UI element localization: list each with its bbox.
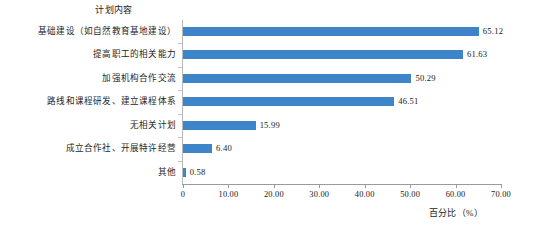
bar-row: 提高职工的相关能力61.63 [0,43,534,66]
bar-row: 其他0.58 [0,161,534,184]
y-axis-tick [178,67,182,68]
y-axis-tick [178,137,182,138]
bar-row: 无相关计划15.99 [0,114,534,137]
bar [183,121,256,130]
bar-value-label: 6.40 [216,137,232,160]
x-axis-tick-label: 70.00 [471,190,531,199]
y-axis-tick [178,161,182,162]
x-axis-title: 百分比（%） [396,206,516,219]
category-label: 路线和课程研发、建立课程体系 [0,90,176,113]
x-axis-tick [456,184,457,188]
y-axis-tick [178,43,182,44]
bar-value-label: 65.12 [483,20,503,43]
bar [183,168,186,177]
bar-row: 路线和课程研发、建立课程体系46.51 [0,90,534,113]
x-axis-tick [274,184,275,188]
x-axis-tick [501,184,502,188]
bar [183,50,463,59]
category-label: 成立合作社、开展特许经营 [0,137,176,160]
category-label: 提高职工的相关能力 [0,43,176,66]
y-axis-tick [178,114,182,115]
bar-value-label: 0.58 [190,161,206,184]
x-axis-tick [228,184,229,188]
category-label: 加强机构合作交流 [0,67,176,90]
category-label: 无相关计划 [0,114,176,137]
bar-value-label: 46.51 [398,90,418,113]
bar-value-label: 50.29 [415,67,435,90]
bar [183,97,394,106]
x-axis-tick [365,184,366,188]
bar-value-label: 61.63 [467,43,487,66]
x-axis-tick [410,184,411,188]
bar [183,74,411,83]
category-label: 基础建设（如自然教育基地建设） [0,20,176,43]
x-axis-line [182,184,501,185]
y-axis-tick [178,90,182,91]
x-axis-tick [319,184,320,188]
bar [183,27,479,36]
bar-chart: 计划内容 基础建设（如自然教育基地建设）65.12提高职工的相关能力61.63加… [0,0,534,229]
bar-row: 加强机构合作交流50.29 [0,67,534,90]
bar [183,144,212,153]
bar-row: 基础建设（如自然教育基地建设）65.12 [0,20,534,43]
x-axis-tick [183,184,184,188]
category-label: 其他 [0,161,176,184]
chart-title: 计划内容 [0,4,228,16]
bar-value-label: 15.99 [260,114,280,137]
bar-row: 成立合作社、开展特许经营6.40 [0,137,534,160]
